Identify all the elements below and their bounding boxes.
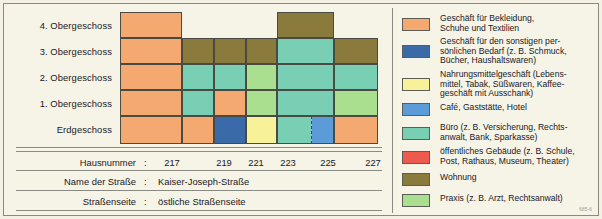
- cell-223-3og[interactable]: [246, 38, 277, 64]
- house-number-227: 227: [353, 157, 393, 168]
- cell-227-2og[interactable]: [334, 64, 378, 90]
- floor-label-2og: 2. Obergeschoss: [0, 72, 112, 83]
- cell-221-1og[interactable]: [214, 90, 246, 116]
- info-label-hausnummer: Hausnummer: [16, 157, 136, 168]
- legend-swatch-office: [402, 127, 430, 140]
- cell-219-3og[interactable]: [182, 38, 214, 64]
- cell-225-1og[interactable]: [277, 90, 334, 116]
- cell-225-4og[interactable]: [277, 12, 334, 38]
- cell-223-2og[interactable]: [246, 64, 277, 90]
- building-use-diagram: 4. Obergeschoss 3. Obergeschoss 2. Oberg…: [8, 6, 388, 215]
- street-info-table: Hausnummer : 217 219 221 223 225 227 Nam…: [16, 151, 382, 213]
- cell-221-eg[interactable]: [214, 116, 246, 144]
- legend-label-dwelling: Wohnung: [440, 173, 594, 183]
- cell-225-2og[interactable]: [277, 64, 334, 90]
- legend-swatch-food: [402, 78, 430, 91]
- cell-221-2og[interactable]: [214, 64, 246, 90]
- cell-221-3og[interactable]: [214, 38, 246, 64]
- info-value-strassenseite: östliche Straßenseite: [158, 196, 246, 207]
- info-row-hausnummer: Hausnummer : 217 219 221 223 225 227: [16, 151, 382, 171]
- floor-label-1og: 1. Obergeschoss: [0, 98, 112, 109]
- legend-label-personal-goods: Geschäft für den sonstigen per- sönliche…: [440, 37, 594, 66]
- info-value-strassenname: Kaiser-Joseph-Straße: [158, 176, 249, 187]
- house-number-217: 217: [152, 157, 192, 168]
- cell-225a-eg[interactable]: [277, 116, 312, 144]
- legend-swatch-dwelling: [402, 173, 430, 186]
- cell-225-3og[interactable]: [277, 38, 334, 64]
- cell-217-3og[interactable]: [120, 38, 182, 64]
- source-note: 685-6: [579, 207, 592, 212]
- legend-swatch-personal-goods: [402, 45, 430, 58]
- info-colon-strassenname: :: [144, 176, 147, 187]
- info-label-strassenname: Name der Straße: [16, 176, 136, 187]
- cell-225b-eg[interactable]: [312, 116, 334, 144]
- info-row-strassenseite: Straßenseite : östliche Straßenseite: [16, 191, 382, 211]
- info-label-strassenseite: Straßenseite: [16, 196, 136, 207]
- house-number-225: 225: [308, 157, 348, 168]
- legend-label-public-building: öffentliches Gebäude (z. B. Schule, Post…: [440, 147, 594, 166]
- cell-217-1og[interactable]: [120, 90, 182, 116]
- cell-217-eg[interactable]: [120, 116, 182, 144]
- legend-swatch-practice: [402, 194, 430, 207]
- legend-swatch-clothing: [402, 18, 430, 31]
- info-colon-hausnummer: :: [144, 157, 147, 168]
- floor-label-eg: Erdgeschoss: [0, 124, 112, 135]
- legend-label-clothing: Geschäft für Bekleidung, Schuhe und Text…: [440, 14, 594, 33]
- legend-label-food: Nahrungsmittelgeschäft (Lebens- mittel, …: [440, 70, 594, 99]
- cell-219-eg[interactable]: [182, 116, 214, 144]
- floor-label-3og: 3. Obergeschoss: [0, 46, 112, 57]
- legend-label-office: Büro (z. B. Versicherung, Rechts- anwalt…: [440, 123, 594, 142]
- legend-swatch-cafe: [402, 103, 430, 116]
- building-baseline: [16, 147, 382, 148]
- legend-label-cafe: Café, Gaststätte, Hotel: [440, 103, 594, 113]
- building-grid: [120, 12, 378, 144]
- cell-223-eg[interactable]: [246, 116, 277, 144]
- info-colon-strassenseite: :: [144, 196, 147, 207]
- legend: Geschäft für Bekleidung, Schuhe und Text…: [398, 8, 596, 213]
- cell-219-2og[interactable]: [182, 64, 214, 90]
- house-number-223: 223: [268, 157, 308, 168]
- page-background: 4. Obergeschoss 3. Obergeschoss 2. Oberg…: [0, 0, 602, 219]
- cell-223-1og[interactable]: [246, 90, 277, 116]
- info-row-strassenname: Name der Straße : Kaiser-Joseph-Straße: [16, 171, 382, 191]
- cell-217-2og[interactable]: [120, 64, 182, 90]
- cell-227-3og[interactable]: [334, 38, 378, 64]
- legend-divider: [392, 8, 393, 213]
- cell-227-1og[interactable]: [334, 90, 378, 116]
- cell-217-4og[interactable]: [120, 12, 182, 38]
- floor-label-4og: 4. Obergeschoss: [0, 20, 112, 31]
- figure-frame: 4. Obergeschoss 3. Obergeschoss 2. Oberg…: [3, 3, 599, 216]
- cell-227-eg[interactable]: [334, 116, 378, 144]
- legend-label-practice: Praxis (z. B. Arzt, Rechtsanwalt): [440, 194, 594, 204]
- legend-swatch-public-building: [402, 151, 430, 164]
- cell-219-1og[interactable]: [182, 90, 214, 116]
